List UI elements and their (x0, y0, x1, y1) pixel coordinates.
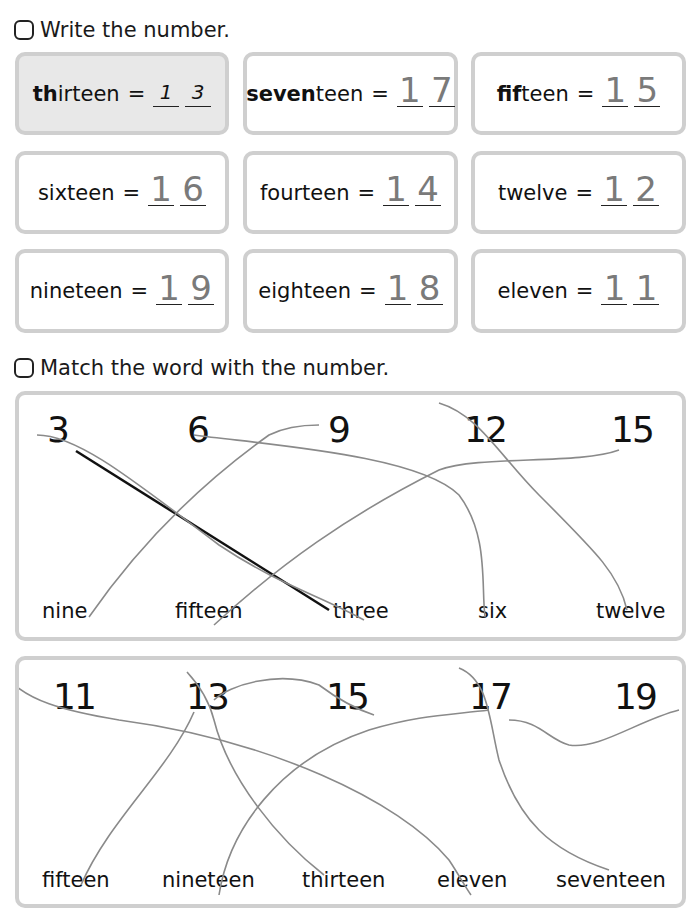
instruction-text: Write the number. (40, 18, 230, 42)
write-number-box-sixteen: sixteen=16 (15, 151, 229, 234)
ones-digit-field[interactable]: 5 (634, 80, 660, 107)
example-match-line (76, 451, 329, 610)
number-word: nineteen (30, 279, 123, 303)
answer-blanks: 18 (385, 278, 443, 305)
number-13: 13 (186, 676, 228, 717)
tens-digit-field[interactable]: 1 (602, 80, 628, 107)
word-twelve: twelve (596, 599, 666, 623)
word-bold-part: fif (497, 82, 522, 106)
answer-blanks: 16 (148, 179, 206, 206)
answer-blanks: 19 (156, 278, 214, 305)
number-3: 3 (47, 409, 68, 450)
tens-digit-field[interactable]: 1 (153, 80, 179, 107)
word-nine: nine (42, 599, 87, 623)
number-word: eleven (498, 279, 568, 303)
word-text: fourteen (260, 181, 350, 205)
instruction-write-number: Write the number. (14, 18, 230, 42)
number-11: 11 (53, 676, 95, 717)
number-word: fourteen (260, 181, 350, 205)
tens-digit-field[interactable]: 1 (397, 80, 423, 107)
ones-digit-field[interactable]: 3 (185, 80, 211, 107)
word-thirteen: thirteen (302, 868, 385, 892)
write-number-box-twelve: twelve=12 (471, 151, 686, 234)
word-text: teen (316, 82, 363, 106)
tens-digit-field[interactable]: 1 (148, 179, 174, 206)
answer-blanks: 13 (153, 80, 211, 107)
number-17: 17 (469, 676, 511, 717)
equals-sign: = (371, 82, 389, 106)
word-fifteen: fifteen (175, 599, 243, 623)
instruction-match: Match the word with the number. (14, 356, 389, 380)
equals-sign: = (576, 279, 594, 303)
number-19: 19 (614, 676, 656, 717)
equals-sign: = (575, 181, 593, 205)
equals-sign: = (357, 181, 375, 205)
number-word: eighteen (258, 279, 351, 303)
word-bold-part: th (33, 82, 58, 106)
tens-digit-field[interactable]: 1 (385, 278, 411, 305)
answer-blanks: 17 (397, 80, 455, 107)
number-word: sixteen (38, 181, 115, 205)
write-number-box-nineteen: nineteen=19 (15, 249, 229, 333)
number-9: 9 (328, 409, 349, 450)
number-15: 15 (326, 676, 368, 717)
ones-digit-field[interactable]: 6 (180, 179, 206, 206)
write-number-box-eighteen: eighteen=18 (243, 249, 458, 333)
match-checkbox[interactable] (14, 358, 34, 378)
answer-blanks: 14 (383, 179, 441, 206)
word-text: sixteen (38, 181, 115, 205)
equals-sign: = (359, 279, 377, 303)
number-word: thirteen (33, 82, 120, 106)
write-number-checkbox[interactable] (14, 20, 34, 40)
word-six: six (478, 599, 507, 623)
equals-sign: = (128, 82, 146, 106)
ones-digit-field[interactable]: 8 (417, 278, 443, 305)
answer-blanks: 11 (601, 278, 659, 305)
number-12: 12 (464, 409, 506, 450)
number-word: fifteen (497, 82, 569, 106)
match-panel-2: 11 13 15 17 19 fifteen nineteen thirteen… (15, 656, 686, 908)
word-text: eleven (498, 279, 568, 303)
instruction-text: Match the word with the number. (40, 356, 389, 380)
word-text: teen (521, 82, 568, 106)
word-seventeen: seventeen (556, 868, 666, 892)
number-6: 6 (187, 409, 208, 450)
answer-blanks: 15 (602, 80, 660, 107)
word-fifteen: fifteen (42, 868, 110, 892)
write-number-box-fifteen: fifteen=15 (471, 52, 686, 135)
equals-sign: = (122, 181, 140, 205)
ones-digit-field[interactable]: 2 (633, 179, 659, 206)
match-panel-1: 3 6 9 12 15 nine fifteen three six twelv… (15, 391, 686, 641)
equals-sign: = (577, 82, 595, 106)
write-number-box-fourteen: fourteen=14 (243, 151, 458, 234)
write-number-box-eleven: eleven=11 (471, 249, 686, 333)
word-text: eighteen (258, 279, 351, 303)
word-bold-part: seven (246, 82, 316, 106)
number-15: 15 (611, 409, 653, 450)
write-number-box-thirteen: thirteen=13 (15, 52, 229, 135)
word-three: three (333, 599, 389, 623)
ones-digit-field[interactable]: 1 (633, 278, 659, 305)
tens-digit-field[interactable]: 1 (383, 179, 409, 206)
answer-blanks: 12 (601, 179, 659, 206)
tens-digit-field[interactable]: 1 (601, 179, 627, 206)
number-word: seventeen (246, 82, 363, 106)
word-eleven: eleven (437, 868, 507, 892)
ones-digit-field[interactable]: 9 (188, 278, 214, 305)
word-text: nineteen (30, 279, 123, 303)
ones-digit-field[interactable]: 7 (429, 80, 455, 107)
tens-digit-field[interactable]: 1 (156, 278, 182, 305)
word-text: twelve (498, 181, 568, 205)
tens-digit-field[interactable]: 1 (601, 278, 627, 305)
word-nineteen: nineteen (162, 868, 255, 892)
equals-sign: = (131, 279, 149, 303)
word-text: irteen (58, 82, 120, 106)
ones-digit-field[interactable]: 4 (415, 179, 441, 206)
number-word: twelve (498, 181, 568, 205)
write-number-box-seventeen: seventeen=17 (243, 52, 458, 135)
